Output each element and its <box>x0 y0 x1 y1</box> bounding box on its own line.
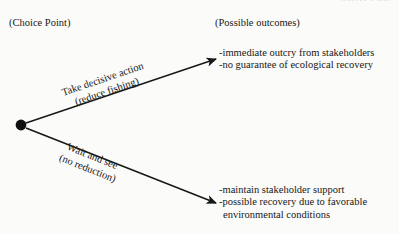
outcome-line: -immediate outcry from stakeholders <box>219 47 374 59</box>
outcome-list-wait-and-see: -maintain stakeholder support -possible … <box>219 184 367 221</box>
outcome-line: -no guarantee of ecological recovery <box>219 59 374 71</box>
outcome-line: -maintain stakeholder support <box>219 184 367 196</box>
outcome-line: environmental conditions <box>219 209 367 221</box>
diagram-page: CHAPTER (Choice Point) (Possible outcome… <box>0 0 399 234</box>
outcome-line: -possible recovery due to favorable <box>219 196 367 208</box>
outcome-list-decisive-action: -immediate outcry from stakeholders -no … <box>219 47 374 72</box>
choice-point-node <box>16 120 27 131</box>
branch-line-wait-and-see <box>26 128 216 203</box>
